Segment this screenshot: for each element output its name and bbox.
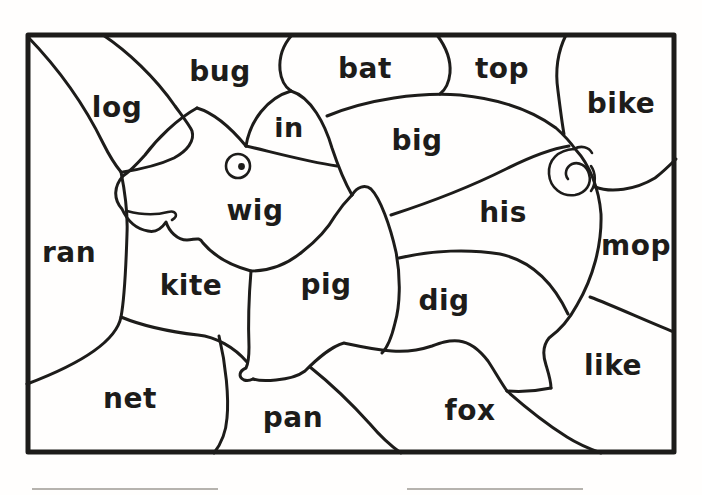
pig-mouth — [127, 211, 176, 220]
region-word-in: in — [274, 112, 303, 143]
region-word-pan: pan — [263, 401, 323, 434]
region-word-his: his — [479, 196, 527, 229]
pig-ear-bottom-edge — [246, 146, 337, 166]
region-word-bug: bug — [189, 55, 251, 88]
boundary-bat-left — [280, 35, 292, 91]
boundary-bike-bottom — [595, 159, 676, 190]
pig-back-and-rump-outline — [327, 94, 601, 388]
region-word-wig: wig — [226, 194, 283, 227]
coloring-puzzle-canvas: log bug bat top bike in big wig his mop … — [0, 0, 702, 495]
pig-pupil-icon — [238, 163, 245, 170]
pig-front-leg-left-edge — [240, 271, 253, 380]
pig-hind-hoof-bottom — [507, 388, 551, 391]
pig-eye-icon — [226, 154, 250, 178]
boundary-bat-right — [437, 35, 450, 94]
boundary-ran-kite — [27, 172, 127, 384]
region-word-mop: mop — [601, 229, 671, 262]
region-word-pig: pig — [300, 268, 351, 301]
region-word-big: big — [391, 124, 442, 157]
pig-forehead — [197, 108, 246, 146]
boundary-fox-like — [507, 391, 601, 453]
pig-belly-outline — [253, 341, 507, 391]
region-word-log: log — [92, 91, 142, 124]
pig-ear-right-edge — [291, 91, 352, 195]
boundary-mop-like — [590, 297, 674, 332]
region-word-fox: fox — [445, 394, 496, 427]
pig-shoulder-front-leg-edge — [352, 187, 399, 353]
worksheet-page: log bug bat top bike in big wig his mop … — [0, 0, 702, 495]
region-word-bat: bat — [338, 52, 392, 85]
region-word-net: net — [103, 382, 157, 415]
pig-tail-spiral — [549, 149, 590, 195]
region-word-top: top — [475, 52, 529, 85]
boundary-kite-net — [121, 317, 247, 362]
boundary-bike-left — [557, 35, 566, 134]
region-word-ran: ran — [42, 236, 96, 269]
region-word-like: like — [584, 349, 642, 382]
region-word-dig: dig — [418, 284, 469, 317]
region-word-bike: bike — [587, 87, 656, 120]
boundary-pan-fox — [310, 367, 401, 453]
boundary-net-pan — [214, 336, 228, 453]
region-word-kite: kite — [160, 269, 223, 302]
